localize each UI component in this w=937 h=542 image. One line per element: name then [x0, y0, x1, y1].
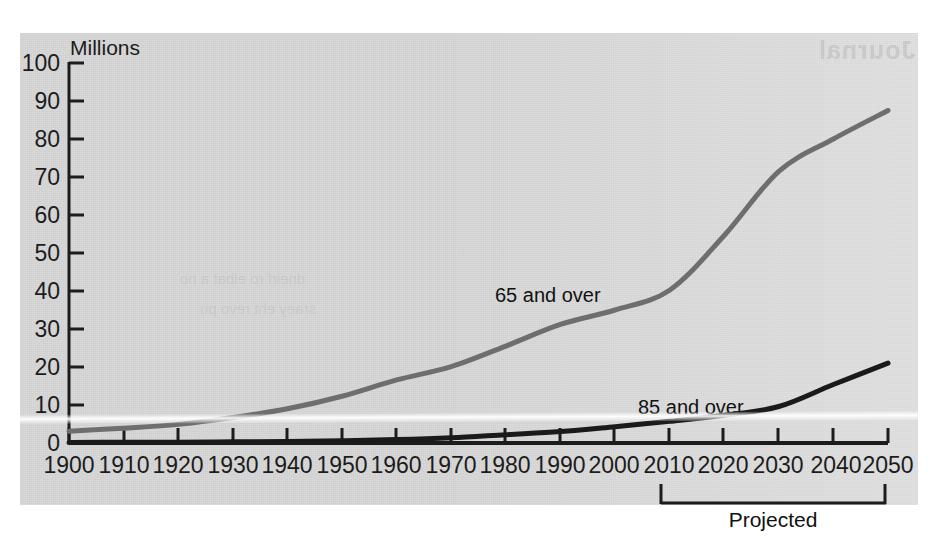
x-tick-label-1920: 1920: [152, 452, 203, 478]
y-tick-label-20: 20: [34, 354, 60, 380]
y-tick-label-50: 50: [34, 240, 60, 266]
x-tick-label-2040: 2040: [810, 452, 861, 478]
x-tick-label-1940: 1940: [261, 452, 312, 478]
y-tick-label-100: 100: [22, 50, 60, 76]
x-tick-label-1910: 1910: [98, 452, 149, 478]
x-tick-label-2000: 2000: [588, 452, 639, 478]
x-tick-label-2030: 2030: [752, 452, 803, 478]
projected-bracket: [661, 484, 886, 504]
series-annotation-85-and-over: 85 and over: [638, 396, 744, 418]
x-tick-label-1990: 1990: [534, 452, 585, 478]
y-axis-unit-label: Millions: [70, 36, 140, 59]
x-tick-label-2020: 2020: [697, 452, 748, 478]
series-line-85-and-over: [69, 363, 888, 442]
chart-figure: Journal dneirf ro elbat a no sraey eht r…: [0, 0, 937, 542]
x-tick-label-1960: 1960: [370, 452, 421, 478]
x-tick-label-2050: 2050: [862, 452, 913, 478]
y-axis: [69, 62, 84, 444]
y-tick-label-10: 10: [34, 392, 60, 418]
x-tick-label-1900: 1900: [43, 452, 94, 478]
y-tick-label-40: 40: [34, 278, 60, 304]
series-line-65-and-over: [69, 111, 888, 432]
line-chart-plot: 100 90 80 70 60 50 40 30 20 10 0 Million…: [0, 0, 937, 542]
x-tick-label-1970: 1970: [425, 452, 476, 478]
y-tick-label-60: 60: [34, 202, 60, 228]
y-tick-label-30: 30: [34, 316, 60, 342]
x-tick-label-1930: 1930: [207, 452, 258, 478]
projected-label: Projected: [729, 508, 818, 531]
x-tick-label-1950: 1950: [316, 452, 367, 478]
series-annotation-65-and-over: 65 and over: [495, 284, 601, 306]
x-tick-label-2010: 2010: [643, 452, 694, 478]
y-tick-label-90: 90: [34, 88, 60, 114]
y-tick-label-70: 70: [34, 164, 60, 190]
y-tick-label-80: 80: [34, 126, 60, 152]
x-tick-label-1980: 1980: [479, 452, 530, 478]
